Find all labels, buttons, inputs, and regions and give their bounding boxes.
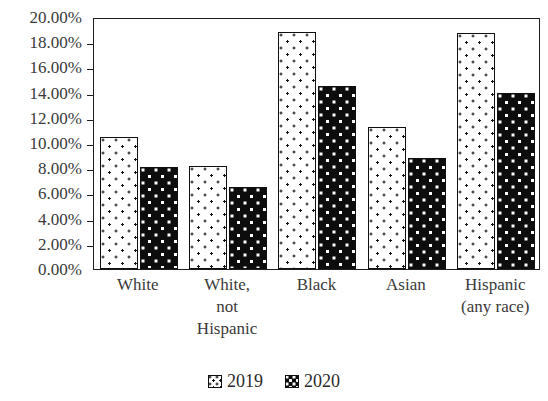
- y-tick-mark: [87, 120, 94, 121]
- plot-inner: [94, 19, 539, 269]
- legend-label: 2019: [227, 372, 263, 390]
- legend-item-2020[interactable]: 2020: [285, 372, 340, 390]
- bar-group: [273, 19, 362, 269]
- y-tick-mark: [87, 246, 94, 247]
- y-tick-mark: [87, 44, 94, 45]
- bar-2019-3: [278, 32, 316, 269]
- bar-2020-5: [497, 93, 535, 269]
- bar-group: [94, 19, 183, 269]
- bar-chart: 20.00%18.00%16.00%14.00%12.00%10.00%8.00…: [0, 0, 548, 401]
- bar-2020-3: [318, 86, 356, 269]
- bar-group: [452, 19, 541, 269]
- y-tick-label: 20.00%: [30, 9, 82, 26]
- bar-2020-1: [140, 167, 178, 269]
- y-tick-label: 14.00%: [30, 85, 82, 102]
- y-tick-mark: [87, 145, 94, 146]
- y-tick-label: 10.00%: [30, 135, 82, 152]
- legend-swatch-icon: [208, 375, 222, 388]
- y-tick-label: 2.00%: [38, 236, 82, 253]
- bar-2020-4: [408, 158, 446, 269]
- y-tick-label: 0.00%: [38, 261, 82, 278]
- x-axis: WhiteWhite, not HispanicBlackAsianHispan…: [93, 274, 540, 364]
- bar-2019-1: [100, 137, 138, 269]
- bar-2019-4: [368, 127, 406, 269]
- y-tick-label: 18.00%: [30, 34, 82, 51]
- bar-2020-2: [229, 187, 267, 269]
- y-tick-mark: [87, 95, 94, 96]
- plot-area: [93, 18, 540, 270]
- y-tick-label: 12.00%: [30, 110, 82, 127]
- bar-2019-5: [457, 33, 495, 269]
- y-tick-label: 16.00%: [30, 59, 82, 76]
- y-tick-mark: [87, 221, 94, 222]
- y-tick-label: 6.00%: [38, 185, 82, 202]
- y-tick-label: 4.00%: [38, 211, 82, 228]
- y-axis: 20.00%18.00%16.00%14.00%12.00%10.00%8.00…: [0, 0, 86, 290]
- y-tick-mark: [87, 170, 94, 171]
- x-category-label: Hispanic (any race): [441, 274, 548, 318]
- bar-group: [362, 19, 451, 269]
- y-tick-label: 8.00%: [38, 160, 82, 177]
- y-tick-mark: [87, 195, 94, 196]
- bar-2019-2: [189, 166, 227, 269]
- legend-swatch-icon: [285, 375, 299, 388]
- legend-label: 2020: [304, 372, 340, 390]
- bar-group: [183, 19, 272, 269]
- y-tick-mark: [87, 69, 94, 70]
- legend-item-2019[interactable]: 2019: [208, 372, 263, 390]
- chart-legend: 20192020: [0, 366, 548, 396]
